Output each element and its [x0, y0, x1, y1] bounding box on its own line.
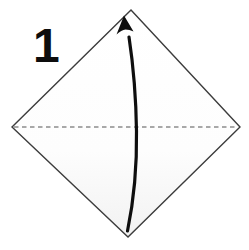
origami-diagram-canvas — [0, 0, 249, 250]
origami-step-diagram: 1 — [0, 0, 249, 250]
paper-square — [12, 10, 240, 237]
